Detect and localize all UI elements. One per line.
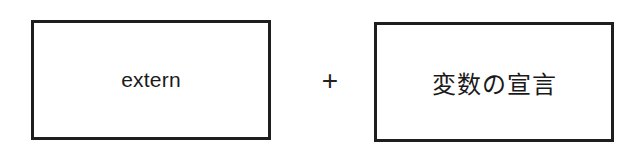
extern-box: extern (31, 20, 271, 140)
variable-declaration-box: 変数の宣言 (374, 22, 614, 142)
plus-operator: + (319, 68, 341, 94)
extern-label: extern (121, 68, 181, 92)
variable-declaration-label: 変数の宣言 (432, 65, 557, 100)
